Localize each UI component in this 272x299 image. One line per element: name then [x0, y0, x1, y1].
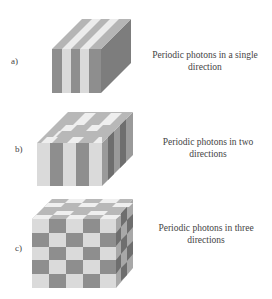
panel-label-c: c): [15, 243, 22, 253]
caption-c-line2: directions: [141, 234, 271, 246]
caption-c: Periodic photons in three directions: [141, 222, 271, 246]
cube-c: [32, 199, 133, 288]
caption-c-line1: Periodic photons in three: [141, 222, 271, 234]
cube-b: [37, 112, 133, 186]
panel-label-b: b): [15, 144, 23, 154]
caption-b: Periodic photons in two directions: [143, 136, 272, 160]
caption-b-line2: directions: [143, 148, 272, 160]
caption-a: Periodic photons in a single direction: [140, 49, 270, 73]
panel-label-a: a): [11, 56, 18, 66]
front-checkerboard: [32, 219, 116, 288]
cube-a: [52, 19, 131, 93]
caption-b-line1: Periodic photons in two: [143, 136, 272, 148]
caption-a-line2: direction: [140, 61, 270, 73]
caption-a-line1: Periodic photons in a single: [140, 49, 270, 61]
